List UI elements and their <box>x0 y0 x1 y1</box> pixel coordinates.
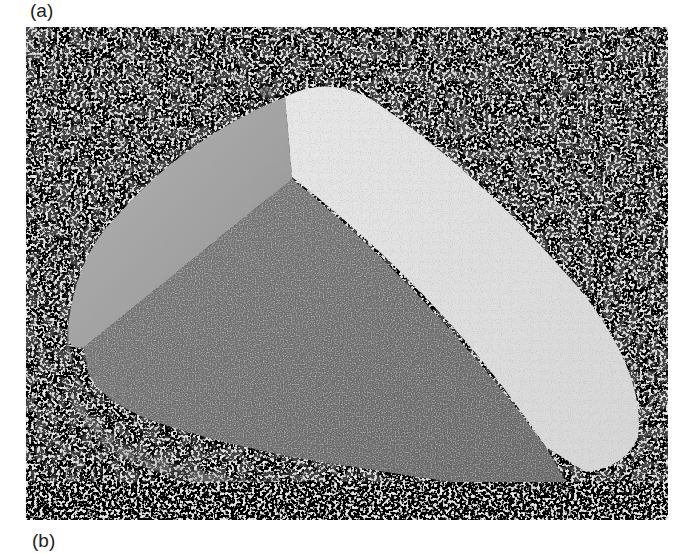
rock-photograph <box>26 27 668 520</box>
panel-label-b: (b) <box>32 531 55 550</box>
foreground-gravel <box>26 482 668 520</box>
panel-label-a: (a) <box>30 1 53 20</box>
